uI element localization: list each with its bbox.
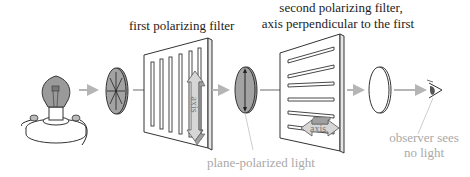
axis-label-second: axis bbox=[310, 121, 326, 136]
pointer-line-polarized bbox=[245, 113, 253, 150]
light-bulb-icon bbox=[21, 76, 87, 145]
observer-label-line1: observer sees bbox=[383, 130, 465, 145]
second-filter-label-line1: second polarizing filter, bbox=[262, 0, 420, 15]
no-light-disc bbox=[369, 67, 391, 113]
first-polarizing-filter bbox=[144, 38, 212, 150]
polarization-diagram: first polarizing filter second polarizin… bbox=[0, 0, 470, 177]
observer-label-line2: no light bbox=[383, 145, 465, 160]
unpolarized-light-disc bbox=[106, 68, 128, 114]
plane-polarized-label: plane-polarized light bbox=[207, 155, 315, 170]
axis-label-first: axis bbox=[187, 96, 202, 112]
plane-polarized-light-disc bbox=[235, 67, 257, 113]
first-filter-label: first polarizing filter bbox=[129, 18, 234, 33]
pointer-line-observer bbox=[418, 98, 433, 134]
second-filter-label-line2: axis perpendicular to the first bbox=[248, 16, 428, 31]
eye-icon bbox=[427, 80, 442, 98]
